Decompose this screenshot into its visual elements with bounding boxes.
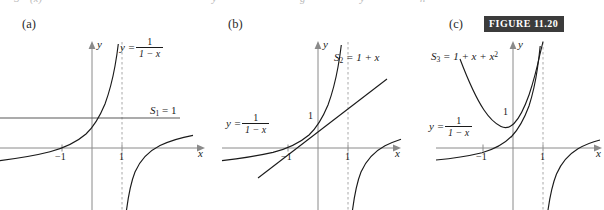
curve-equation-numerator-c: 1 [445,116,472,126]
y-axis-label-a: y [97,38,102,50]
x-tick-label-1-c: 1 [540,151,545,162]
x-tick-label-minus1-c: −1 [476,151,487,162]
curve-equation-denominator-a: 1 − x [136,47,163,60]
partial-sum-label-b: S2 = 1 + x [334,52,379,65]
cut-off-fragment: g [300,0,305,4]
panel-c-plot: y x −1 1 1 y =11 − x S3 = 1 + x + x2 [420,32,604,210]
figure-page: S (x) y g y n (a) (b) (c) FIGURE 11.20 [0,0,604,210]
partial-sum-index-c: 3 [437,55,441,64]
x-axis-label-c: x [596,147,601,159]
x-axis-label-b: x [395,147,400,159]
curve-equation-lhs-b: y = [226,117,241,129]
y-tick-label-1-c: 1 [503,106,508,117]
panel-label-c: (c) [449,17,463,32]
curve-reciprocal-left-a [0,44,118,161]
curve-reciprocal-right-a [127,135,194,210]
x-tick-label-minus1-a: −1 [55,151,66,162]
series-S2-line [258,79,387,178]
cut-off-text-row: S (x) y g y n [0,0,604,5]
y-axis-arrow-a [89,41,96,49]
y-axis-arrow-c [510,41,517,49]
partial-sum-rhs-b: = 1 + x [346,51,379,63]
curve-equation-fraction-a: 11 − x [136,37,163,60]
y-axis-label-c: y [518,38,523,50]
curve-equation-label-a: y =11 − x [120,37,164,60]
y-axis-label-b: y [323,38,328,50]
x-tick-label-1-b: 1 [345,151,350,162]
curve-equation-fraction-b: 11 − x [242,113,269,136]
y-tick-label-1-b: 1 [308,110,313,121]
figure-number-tag: FIGURE 11.20 [484,16,564,32]
partial-sum-index-b: 2 [340,56,344,65]
panel-a-plot: y x −1 1 y =11 − x S1 = 1 [0,32,215,210]
cut-off-fragment: n [420,0,425,4]
partial-sum-rhs-a: = 1 [162,104,176,116]
x-tick-label-minus1-b: −1 [281,151,292,162]
partial-sum-rhs-c: = 1 + x + x [443,50,494,62]
curve-equation-fraction-c: 11 − x [445,116,472,139]
curve-reciprocal-right-c [548,140,600,210]
curve-equation-denominator-b: 1 − x [242,123,269,136]
curve-reciprocal-left-b [222,45,341,161]
cut-off-fragment: (x) [30,0,42,4]
curve-equation-denominator-c: 1 − x [445,126,472,139]
curve-equation-lhs-c: y = [429,120,444,132]
curve-equation-lhs-a: y = [120,41,135,53]
x-tick-label-1-a: 1 [119,151,124,162]
curve-equation-label-b: y =11 − x [226,113,270,136]
partial-sum-index-a: 1 [156,109,160,118]
cut-off-fragment: S [14,0,19,4]
cut-off-fragment: y [360,0,365,4]
cut-off-fragment: y [212,0,217,4]
curve-equation-numerator-a: 1 [136,37,163,47]
panel-a-svg [0,32,215,210]
partial-sum-exponent-c: 2 [494,50,498,59]
curve-equation-label-c: y =11 − x [429,116,473,139]
panel-b-plot: y x −1 1 1 y =11 − x S2 = 1 + x [215,32,420,210]
y-axis-arrow-b [315,41,322,49]
curve-equation-numerator-b: 1 [242,113,269,123]
x-axis-label-a: x [198,147,203,159]
partial-sum-label-c: S3 = 1 + x + x2 [431,51,498,64]
panel-label-b: (b) [228,17,243,32]
partial-sum-label-a: S1 = 1 [150,105,176,118]
panel-label-a: (a) [22,17,36,32]
